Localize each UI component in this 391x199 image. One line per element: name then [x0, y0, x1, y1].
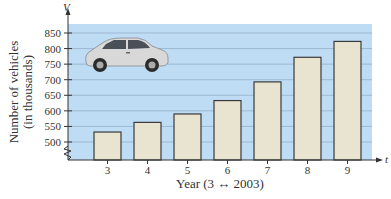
- x-tick-label: 8: [305, 164, 311, 176]
- bar-year-5: [174, 114, 201, 160]
- bar-year-8: [294, 57, 321, 160]
- bar-year-7: [254, 82, 281, 160]
- y-tick-label: 500: [45, 136, 62, 148]
- x-axis-variable: t: [385, 153, 389, 165]
- y-axis-title-line1: Number of vehicles: [6, 41, 21, 144]
- y-tick-label: 550: [45, 120, 62, 132]
- y-tick-label: 650: [45, 89, 62, 101]
- y-tick-label: 750: [45, 58, 62, 70]
- y-axis-variable: V: [63, 1, 71, 13]
- bar-year-3: [94, 132, 121, 160]
- y-axis-title-line2: (in thousands): [20, 55, 35, 129]
- y-tick-label: 800: [45, 43, 62, 55]
- x-tick-label: 6: [225, 164, 231, 176]
- x-tick-label: 5: [185, 164, 191, 176]
- x-tick-label: 7: [265, 164, 271, 176]
- y-tick-label: 600: [45, 105, 62, 117]
- bar-year-9: [334, 41, 361, 160]
- x-tick-label: 3: [105, 164, 111, 176]
- y-tick-label: 850: [45, 27, 62, 39]
- x-axis-title: Year (3 ↔ 2003): [176, 176, 264, 191]
- vehicle-bar-chart: 500550600650700750800850 3456789 V t Yea…: [0, 0, 391, 199]
- x-tick-label: 9: [345, 164, 351, 176]
- x-axis-arrow-icon: [376, 158, 383, 163]
- y-tick-label: 700: [45, 74, 62, 86]
- x-tick-label: 4: [145, 164, 151, 176]
- x-tick-labels: 3456789: [105, 160, 351, 176]
- bar-year-6: [214, 101, 241, 160]
- bar-year-4: [134, 122, 161, 160]
